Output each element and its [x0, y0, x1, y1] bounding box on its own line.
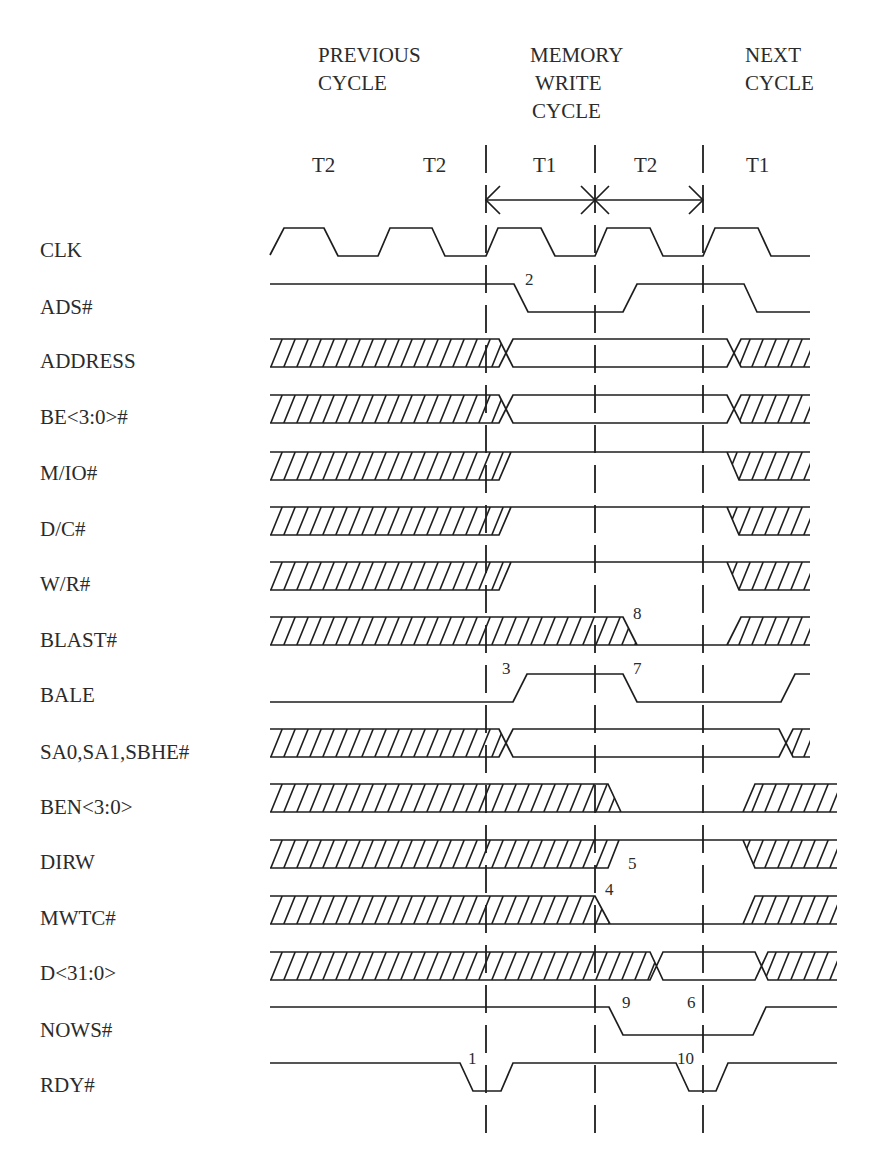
hatched-region [270, 507, 511, 535]
timing-diagram: PREVIOUS CYCLE MEMORY WRITE CYCLE NEXT C… [0, 0, 870, 1169]
signal-blast: BLAST# [40, 617, 810, 652]
signal-address: ADDRESS [40, 339, 810, 373]
signal-ben: BEN<3:0> [40, 784, 837, 819]
annotation-5: 5 [628, 854, 637, 873]
hatched-region [743, 784, 837, 812]
waveform [270, 674, 810, 702]
phase-label: WRITE [535, 71, 601, 95]
signal-clk: CLK [40, 228, 810, 262]
signal-label: BALE [40, 683, 95, 707]
waveform [270, 1063, 837, 1091]
phase-header-previous-cycle: PREVIOUS CYCLE [318, 43, 421, 95]
waveform [270, 284, 810, 312]
hatched-region [734, 395, 810, 423]
waveform [270, 228, 810, 256]
signal-label: NOWS# [40, 1018, 113, 1042]
signal-rdy: RDY# [40, 1063, 837, 1097]
signal-be: BE<3:0># [40, 395, 810, 429]
waveform [270, 1007, 837, 1035]
signal-label: CLK [40, 238, 82, 262]
signal-label: D/C# [40, 517, 86, 541]
hatched-region [270, 784, 621, 812]
hatched-region [734, 339, 810, 367]
annotation-10: 10 [677, 1049, 694, 1068]
hatched-region [727, 562, 810, 590]
phase-label: CYCLE [745, 71, 814, 95]
hatched-region [270, 339, 506, 367]
signal-m-io: M/IO# [40, 452, 810, 485]
signal-label: ADS# [40, 295, 93, 319]
hatched-region [727, 452, 810, 480]
hatched-region [270, 729, 506, 757]
signal-sa0-sa1-sbhe: SA0,SA1,SBHE# [40, 729, 810, 764]
signal-data-bus: D<31:0> [40, 952, 837, 985]
t-state-label: T1 [533, 153, 556, 177]
annotation-2: 2 [525, 270, 534, 289]
hatched-region [270, 452, 511, 480]
hatched-region [270, 952, 656, 980]
annotation-8: 8 [633, 604, 642, 623]
signal-label: D<31:0> [40, 961, 116, 985]
hatched-region [270, 562, 511, 590]
hatched-region [743, 896, 837, 924]
signal-label: DIRW [40, 850, 95, 874]
signal-label: W/R# [40, 572, 91, 596]
phase-label: PREVIOUS [318, 43, 421, 67]
annotation-9: 9 [622, 993, 631, 1012]
signal-label: BE<3:0># [40, 405, 128, 429]
signal-label: ADDRESS [40, 349, 136, 373]
hatched-region [761, 952, 837, 980]
hatched-region [743, 840, 837, 868]
phase-label: MEMORY [530, 43, 623, 67]
t-state-row: T2 T2 T1 T2 T1 [312, 153, 769, 177]
signal-d-c: D/C# [40, 507, 810, 541]
signal-label: BEN<3:0> [40, 795, 133, 819]
phase-label: CYCLE [532, 99, 601, 123]
signal-label: RDY# [40, 1073, 95, 1097]
hatched-region [727, 507, 810, 535]
signal-w-r: W/R# [40, 562, 810, 596]
t-state-label: T2 [423, 153, 446, 177]
t-state-label: T1 [746, 153, 769, 177]
hatched-region [270, 840, 619, 868]
t-state-label: T2 [634, 153, 657, 177]
signal-label: SA0,SA1,SBHE# [40, 740, 190, 764]
signal-nows: NOWS# [40, 1007, 837, 1042]
hatched-region [270, 896, 610, 924]
phase-header-memory-write-cycle: MEMORY WRITE CYCLE [530, 43, 623, 123]
hatched-region [270, 395, 506, 423]
signal-mwtc: MWTC# [40, 896, 837, 930]
hatched-region [786, 729, 810, 757]
annotation-7: 7 [633, 659, 642, 678]
annotation-4: 4 [605, 880, 614, 899]
phase-header-next-cycle: NEXT CYCLE [745, 43, 814, 95]
annotation-3: 3 [502, 659, 511, 678]
signal-label: BLAST# [40, 628, 118, 652]
signal-bale: BALE [40, 674, 810, 707]
timing-annotations: 1 2 3 4 5 6 7 8 9 10 [468, 270, 696, 1068]
t-state-label: T2 [312, 153, 335, 177]
signal-dirw: DIRW [40, 840, 837, 874]
phase-label: NEXT [745, 43, 801, 67]
signal-ads: ADS# [40, 284, 810, 319]
annotation-1: 1 [468, 1049, 477, 1068]
hatched-region [270, 617, 637, 645]
phase-label: CYCLE [318, 71, 387, 95]
signal-label: MWTC# [40, 906, 116, 930]
signal-label: M/IO# [40, 461, 98, 485]
annotation-6: 6 [687, 993, 696, 1012]
